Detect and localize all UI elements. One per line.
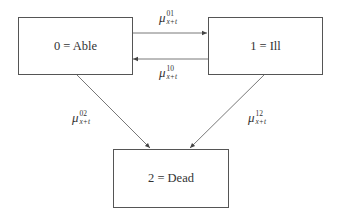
rate-subscript: x+t	[256, 118, 266, 126]
state-ill: 1 = Ill	[208, 17, 323, 75]
state-able-label: 0 = Able	[54, 39, 97, 54]
mu-symbol: μ	[248, 110, 255, 125]
rate-subscript: x+t	[167, 73, 177, 81]
mu-symbol: μ	[159, 10, 166, 25]
rate-subscript: x+t	[80, 118, 90, 126]
state-able: 0 = Able	[18, 17, 133, 75]
state-dead: 2 = Dead	[113, 149, 229, 208]
state-dead-label: 2 = Dead	[148, 171, 194, 186]
rate-label-12: μ12x+t	[248, 111, 266, 127]
mu-symbol: μ	[159, 65, 166, 80]
rate-label-02: μ02x+t	[72, 111, 90, 127]
rate-label-10: μ10x+t	[159, 66, 177, 82]
rate-label-01: μ01x+t	[159, 11, 177, 27]
mu-symbol: μ	[72, 110, 79, 125]
rate-subscript: x+t	[167, 18, 177, 26]
state-ill-label: 1 = Ill	[250, 39, 281, 54]
